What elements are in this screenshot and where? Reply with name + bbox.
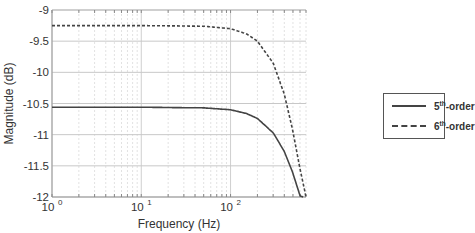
x-tick-labels: 100101102 bbox=[42, 198, 242, 213]
svg-text:-9.5: -9.5 bbox=[29, 35, 49, 47]
legend-item-6th-order: 6th-order bbox=[392, 120, 475, 132]
legend-label: 5th-order bbox=[434, 100, 475, 112]
series-line-5th-order bbox=[52, 107, 303, 197]
svg-text:10: 10 bbox=[220, 201, 233, 213]
svg-text:10: 10 bbox=[131, 201, 144, 213]
svg-text:-10.5: -10.5 bbox=[23, 98, 49, 110]
legend-item-5th-order: 5th-order bbox=[392, 100, 475, 112]
y-tick-labels: -9-9.5-10-10.5-11-11.5-12 bbox=[23, 4, 49, 203]
svg-text:-9: -9 bbox=[39, 4, 49, 16]
series-line-6th-order bbox=[52, 26, 306, 197]
svg-text:2: 2 bbox=[237, 198, 242, 207]
grid bbox=[52, 10, 306, 197]
dashed-line-swatch bbox=[392, 125, 426, 127]
svg-text:10: 10 bbox=[42, 201, 55, 213]
svg-text:-11: -11 bbox=[33, 129, 49, 141]
y-axis-label: Magnitude (dB) bbox=[2, 62, 16, 144]
x-axis-label: Frequency (Hz) bbox=[138, 217, 221, 231]
solid-line-swatch bbox=[392, 105, 426, 107]
svg-text:-11.5: -11.5 bbox=[24, 160, 49, 172]
svg-text:0: 0 bbox=[58, 198, 63, 207]
svg-text:1: 1 bbox=[147, 198, 152, 207]
legend: 5th-order 6th-order bbox=[383, 93, 445, 139]
svg-text:-10: -10 bbox=[32, 66, 49, 78]
legend-label: 6th-order bbox=[434, 120, 475, 132]
